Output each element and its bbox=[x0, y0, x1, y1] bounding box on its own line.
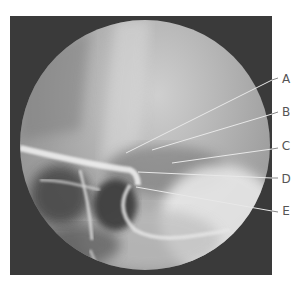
label-d: D bbox=[278, 172, 294, 186]
leader-line-d bbox=[138, 172, 272, 178]
label-b: B bbox=[278, 105, 294, 119]
leader-line-e bbox=[136, 187, 272, 211]
leader-line-b bbox=[152, 114, 272, 150]
label-a: A bbox=[278, 72, 294, 86]
leader-line-c bbox=[172, 149, 272, 163]
label-e: E bbox=[278, 204, 294, 218]
label-c: C bbox=[278, 139, 294, 153]
leader-lines bbox=[0, 0, 299, 292]
leader-line-a bbox=[126, 80, 272, 153]
